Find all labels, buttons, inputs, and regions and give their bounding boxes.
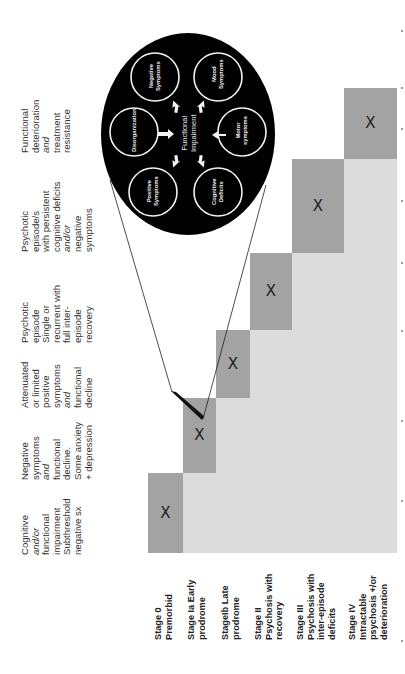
scan-artifact (401, 128, 403, 130)
scan-artifact (401, 420, 403, 422)
scan-artifact (401, 200, 403, 202)
scan-artifact (401, 500, 403, 502)
domain-label-line: Deficits (218, 179, 225, 205)
inset-center-label: Functional Impairment (181, 114, 198, 152)
domain-label-disorganization: Disorganization (131, 109, 138, 152)
domain-label-line: symptoms (242, 116, 249, 145)
center-label-line: Impairment (190, 114, 199, 152)
domain-label-line: Positive (146, 176, 153, 206)
domain-label-line: Motor (235, 116, 242, 145)
domain-label-line: Negative (148, 61, 155, 91)
domain-label-negative: Negative Symptoms (148, 61, 162, 91)
zoom-wedge-icon (171, 391, 204, 420)
domain-label-line: Disorganization (131, 109, 138, 152)
domain-label-line: Symptoms (153, 176, 160, 206)
domain-label-motor: Motor symptoms (235, 116, 249, 145)
domain-label-line: Symptoms (155, 61, 162, 91)
domain-label-positive: Positive Symptoms (146, 176, 160, 206)
inset-graphic (0, 0, 405, 674)
psychosis-staging-diagram: X X X X X X Cognitive and/or functional … (0, 0, 405, 674)
scan-artifact (401, 30, 403, 32)
domain-label-line: Cognitive (211, 179, 218, 205)
scan-artifact (401, 330, 403, 332)
scan-artifact (401, 87, 403, 89)
scan-artifact (401, 262, 403, 264)
domain-label-cognitive: Cognitive Deficits (211, 179, 225, 205)
scan-artifact (401, 640, 403, 642)
domain-label-line: Symptoms (218, 59, 225, 89)
domain-label-line: Mood (211, 59, 218, 89)
domain-label-mood: Mood Symptoms (211, 59, 225, 89)
